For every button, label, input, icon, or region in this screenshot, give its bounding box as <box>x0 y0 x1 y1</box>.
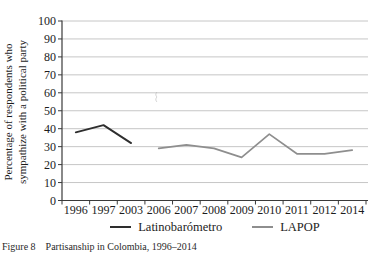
x-tick-label-2008: 2008 <box>200 203 228 217</box>
legend-label-lapop: LAPOP <box>280 220 320 234</box>
series-line-lapop <box>159 134 353 157</box>
series-line-latinobarometro <box>76 125 131 143</box>
x-tick-label-2003: 2003 <box>117 203 145 217</box>
legend-label-latinobarometro: Latinobarómetro <box>138 220 222 234</box>
chart-legend: Latinobarómetro LAPOP <box>62 219 368 235</box>
y-tick-label-100: 100 <box>0 14 56 28</box>
y-tick-label-20: 20 <box>0 158 56 172</box>
y-tick-label-50: 50 <box>0 104 56 118</box>
legend-item-lapop: LAPOP <box>252 220 320 234</box>
x-tick-label-1997: 1997 <box>90 203 118 217</box>
y-tick-label-80: 80 <box>0 50 56 64</box>
y-tick-label-90: 90 <box>0 32 56 46</box>
legend-item-latinobarometro: Latinobarómetro <box>110 220 222 234</box>
x-tick-label-2009: 2009 <box>228 203 256 217</box>
y-tick-label-40: 40 <box>0 122 56 136</box>
latinobarometro-line-swatch <box>110 226 131 228</box>
figure-caption: Figure 8 Partisanship in Colombia, 1996–… <box>2 241 372 253</box>
x-tick-label-2006: 2006 <box>145 203 173 217</box>
y-tick-label-70: 70 <box>0 68 56 82</box>
y-tick-label-60: 60 <box>0 86 56 100</box>
x-tick-label-2014: 2014 <box>338 203 366 217</box>
x-tick-label-2007: 2007 <box>173 203 201 217</box>
scan-smudge-artifact <box>156 92 157 102</box>
lapop-line-swatch <box>252 226 273 228</box>
x-tick-label-2010: 2010 <box>255 203 283 217</box>
y-tick-label-10: 10 <box>0 176 56 190</box>
x-axis-tick-labels: 1996199720032006200720082009201020112012… <box>0 203 375 219</box>
y-axis-tick-labels: 0102030405060708090100 <box>0 0 56 210</box>
x-tick-label-1996: 1996 <box>62 203 90 217</box>
x-tick-label-2012: 2012 <box>311 203 339 217</box>
x-tick-label-2011: 2011 <box>283 203 311 217</box>
y-tick-label-30: 30 <box>0 140 56 154</box>
